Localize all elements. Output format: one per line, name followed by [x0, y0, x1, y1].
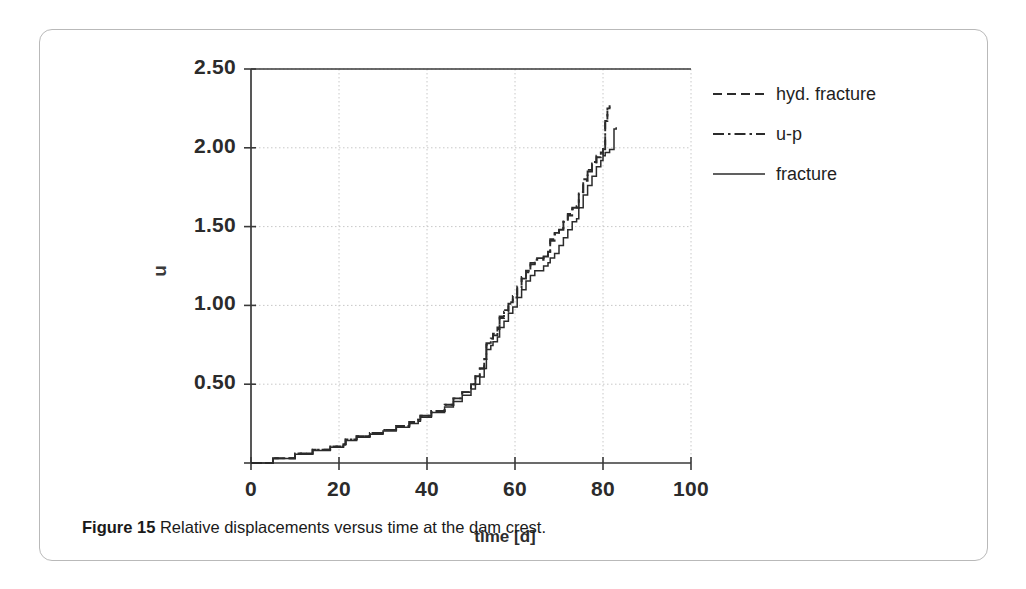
- y-tick-label: 2.50: [162, 55, 236, 79]
- x-tick-label: 40: [397, 477, 457, 501]
- chart-series-fracture: [251, 127, 616, 463]
- legend-item-label: u-p: [776, 124, 802, 145]
- figure-caption-label: Figure 15: [82, 518, 155, 536]
- chart-legend: hyd. fractureu-pfracture: [712, 74, 952, 194]
- figure-caption-text: Relative displacements versus time at th…: [160, 518, 546, 536]
- figure-caption: Figure 15 Relative displacements versus …: [82, 517, 962, 538]
- chart-plot-region: 2.502.001.501.000.50 020406080100 u time…: [40, 30, 989, 500]
- x-tick-label: 60: [485, 477, 545, 501]
- legend-item-label: hyd. fracture: [776, 84, 876, 105]
- legend-item: fracture: [712, 154, 952, 194]
- y-tick-label: 1.00: [162, 291, 236, 315]
- chart-gridlines: [251, 69, 691, 463]
- legend-item: hyd. fracture: [712, 74, 952, 114]
- y-axis-title: u: [149, 246, 171, 296]
- figure-card: 2.502.001.501.000.50 020406080100 u time…: [39, 29, 988, 561]
- x-tick-label: 0: [221, 477, 281, 501]
- chart-series-hyd-fracture: [251, 105, 610, 463]
- chart-series-group: [251, 105, 616, 463]
- chart-tick-marks: [244, 69, 691, 470]
- y-tick-label: 0.50: [162, 370, 236, 394]
- legend-line-swatch: [712, 127, 766, 141]
- x-tick-label: 80: [573, 477, 633, 501]
- y-tick-label: 2.00: [162, 134, 236, 158]
- chart-series-u-p: [251, 107, 610, 463]
- legend-item: u-p: [712, 114, 952, 154]
- chart-axis-lines: [251, 69, 691, 463]
- x-tick-label: 100: [661, 477, 721, 501]
- x-tick-label: 20: [309, 477, 369, 501]
- legend-line-swatch: [712, 167, 766, 181]
- legend-item-label: fracture: [776, 164, 837, 185]
- legend-line-swatch: [712, 87, 766, 101]
- y-tick-label: 1.50: [162, 213, 236, 237]
